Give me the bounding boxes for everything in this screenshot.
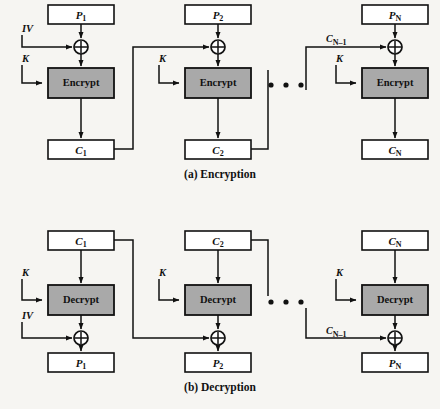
key-label-enc-2: K (158, 53, 167, 64)
decrypt-box-label-2: Decrypt (200, 294, 237, 305)
key-label-dec-n: K (335, 267, 344, 278)
key-label-enc-n: K (335, 53, 344, 64)
iv-label-enc: IV (21, 23, 34, 34)
decrypt-box-label-n: Decrypt (377, 294, 414, 305)
encrypt-box-label-n: Encrypt (377, 77, 414, 88)
caption-decryption: (b) Decryption (184, 381, 256, 394)
key-label-dec-1: K (21, 267, 30, 278)
decrypt-box-label-1: Decrypt (63, 294, 100, 305)
key-label-enc-1: K (21, 53, 30, 64)
ellipsis-dot-2-dec (283, 299, 288, 304)
ellipsis-dot-3-enc (298, 82, 303, 87)
ellipsis-dot-1-dec (268, 299, 273, 304)
ellipsis-dot-3-dec (298, 299, 303, 304)
figure-background (0, 0, 440, 409)
encrypt-box-label-1: Encrypt (63, 77, 100, 88)
ellipsis-dot-2-enc (283, 82, 288, 87)
caption-encryption: (a) Encryption (184, 168, 256, 181)
iv-label-dec: IV (21, 310, 34, 321)
cbc-mode-figure: P1 IV K Encrypt C1 P2 (0, 0, 440, 409)
ellipsis-dot-1-enc (268, 82, 273, 87)
encrypt-box-label-2: Encrypt (200, 77, 237, 88)
key-label-dec-2: K (158, 267, 167, 278)
